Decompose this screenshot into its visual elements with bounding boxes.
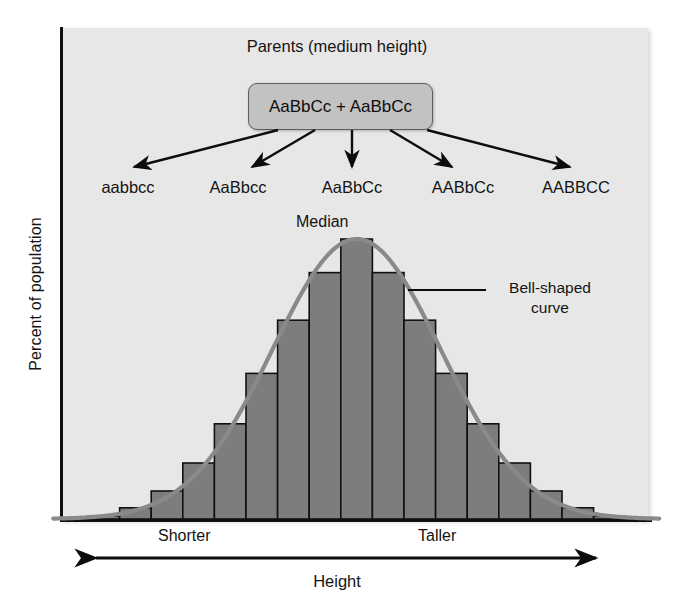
median-label: Median — [296, 213, 348, 231]
parents-title: Parents (medium height) — [0, 37, 674, 56]
y-axis-line — [60, 27, 63, 522]
x-axis-line — [60, 519, 652, 522]
taller-label: Taller — [418, 527, 456, 545]
figure-root: Percent of population Parents (medium he… — [0, 0, 674, 602]
offspring-label-4: AABBCC — [542, 178, 610, 197]
parents-genotype-box: AaBbCc + AaBbCc — [248, 83, 433, 130]
shorter-label: Shorter — [158, 527, 210, 545]
offspring-label-0: aabbcc — [101, 178, 154, 197]
offspring-label-3: AABbCc — [432, 178, 494, 197]
offspring-label-2: AaBbCc — [322, 178, 383, 197]
bell-curve-label: Bell-shaped curve — [490, 278, 610, 318]
offspring-label-1: AaBbcc — [210, 178, 267, 197]
x-axis-title: Height — [0, 572, 674, 591]
parents-genotype-text: AaBbCc + AaBbCc — [269, 97, 412, 117]
y-axis-title: Percent of population — [27, 184, 45, 404]
